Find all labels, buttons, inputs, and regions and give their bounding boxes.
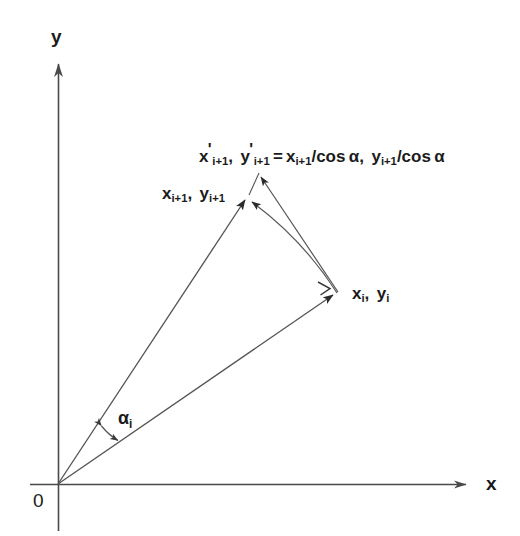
xi-token-y: y: [377, 284, 386, 303]
formula-token-comma-2: ,: [359, 147, 364, 166]
xi1-token-comma: ,: [187, 184, 192, 203]
xi-token-sub-y: i: [386, 292, 389, 304]
xi-token-sub-x: i: [361, 292, 364, 304]
formula-token-sub-i1-y2: i+1: [381, 155, 397, 167]
y-axis-label: y: [51, 27, 62, 46]
point-label-xi1-prime-formula: x'i+1, y'i+1=xi+1/cos α, yi+1/cos α: [199, 148, 445, 165]
x-axis-label: x: [486, 474, 497, 493]
vectors-group: [58, 173, 338, 484]
angle-arc-group: [102, 426, 119, 441]
formula-token-equals: =: [273, 147, 283, 166]
angle-label-alpha-i: αi: [118, 409, 132, 427]
vector-xi-to-xi1-prime: [261, 177, 338, 292]
xi1-token-sub-y: i+1: [209, 192, 225, 204]
axes-group: [30, 64, 466, 531]
formula-token-cos-alpha-2: /cos α: [397, 147, 445, 166]
formula-token-sub-i1-x2: i+1: [296, 155, 312, 167]
angle-token-alpha: α: [118, 408, 129, 428]
formula-token-x2: x: [286, 147, 295, 166]
xi1-token-sub-x: i+1: [171, 192, 187, 204]
vector-to-xi: [58, 295, 333, 484]
point-label-xi: xi, yi: [352, 285, 389, 302]
formula-token-sub-i1-y: i+1: [254, 155, 270, 167]
formula-token-prime-y: ': [249, 140, 253, 158]
point-label-xi1: xi+1, yi+1: [162, 185, 225, 202]
angle-arc-alpha-i: [102, 426, 119, 441]
formula-token-y2: y: [371, 147, 380, 166]
formula-token-sub-i1-x: i+1: [212, 155, 228, 167]
formula-token-cos-alpha-1: /cos α: [311, 147, 359, 166]
arc-xi-to-xi1: [252, 202, 337, 293]
origin-label: 0: [33, 491, 44, 510]
diagram-canvas: y x 0 x'i+1, y'i+1=xi+1/cos α, yi+1/cos …: [0, 0, 520, 536]
segment-xi1-to-xi1-prime: [249, 173, 259, 195]
formula-token-comma-1: ,: [228, 147, 233, 166]
xi-token-comma: ,: [365, 284, 370, 303]
arc-direction-tick: [318, 282, 330, 295]
vector-to-xi1: [58, 200, 245, 484]
angle-token-subscript: i: [129, 417, 132, 431]
diagram-vector-graphics: [0, 0, 520, 536]
xi1-token-y: y: [200, 184, 209, 203]
